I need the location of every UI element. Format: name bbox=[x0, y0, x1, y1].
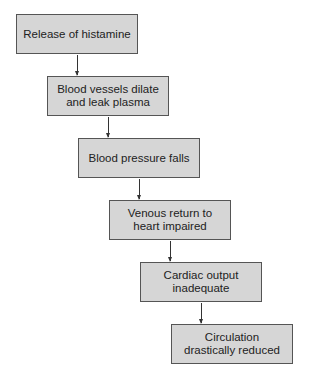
node-label: Venous return to heart impaired bbox=[128, 207, 212, 233]
node-label: Blood pressure falls bbox=[89, 152, 190, 165]
node-label: Cardiac output inadequate bbox=[164, 269, 239, 295]
node-blood-pressure-falls: Blood pressure falls bbox=[78, 138, 200, 178]
arrow-2-to-3 bbox=[108, 117, 109, 137]
node-label: Release of histamine bbox=[23, 28, 130, 41]
node-label: Circulation drastically reduced bbox=[184, 331, 280, 357]
node-cardiac-output-inadequate: Cardiac output inadequate bbox=[140, 262, 262, 302]
node-venous-return-impaired: Venous return to heart impaired bbox=[109, 200, 231, 240]
arrow-4-to-5 bbox=[170, 241, 171, 261]
arrow-1-to-2 bbox=[77, 55, 78, 75]
node-circulation-reduced: Circulation drastically reduced bbox=[171, 324, 293, 364]
arrow-5-to-6 bbox=[201, 303, 202, 323]
node-label: Blood vessels dilate and leak plasma bbox=[57, 83, 159, 109]
node-release-of-histamine: Release of histamine bbox=[16, 14, 138, 54]
arrow-3-to-4 bbox=[139, 179, 140, 199]
node-blood-vessels-dilate: Blood vessels dilate and leak plasma bbox=[47, 76, 169, 116]
